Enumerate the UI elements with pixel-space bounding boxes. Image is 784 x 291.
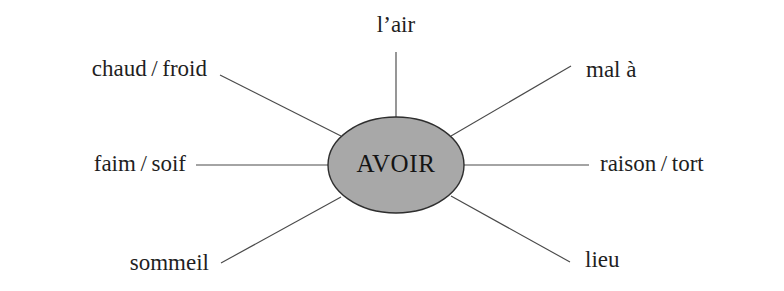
center-node: AVOIR (328, 117, 464, 213)
node-label-faim-soif: faim / soif (94, 151, 187, 176)
node-label-lieu: lieu (585, 247, 620, 272)
word-web-diagram: AVOIR l’air mal à raison / tort lieu som… (0, 0, 784, 291)
node-label-l-air: l’air (377, 12, 416, 37)
node-label-raison-tort: raison / tort (600, 151, 704, 176)
node-label-chaud-froid: chaud / froid (92, 56, 208, 81)
center-label: AVOIR (357, 150, 436, 177)
word-web-canvas: AVOIR l’air mal à raison / tort lieu som… (0, 0, 784, 291)
node-label-sommeil: sommeil (130, 250, 209, 275)
node-label-mal-a: mal à (586, 57, 636, 82)
